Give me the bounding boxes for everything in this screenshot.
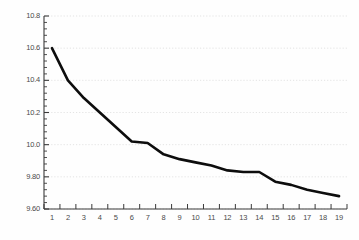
data-series-line (52, 48, 339, 196)
x-axis-tick-label: 19 (330, 213, 348, 222)
y-axis-tick-label: 10.4 (14, 75, 40, 84)
y-axis-tick-label: 9.80 (14, 172, 40, 181)
y-axis-tick-label: 9.60 (14, 204, 40, 213)
grid-lines (45, 16, 347, 209)
y-axis-ticks (44, 16, 49, 209)
chart-plot-area (0, 0, 359, 240)
y-axis-tick-label: 10.6 (14, 43, 40, 52)
line-chart: 10.810.610.410.210.09.809.60 12345678910… (0, 0, 359, 240)
y-axis-tick-label: 10.2 (14, 108, 40, 117)
x-axis-ticks (44, 204, 347, 209)
y-axis-tick-label: 10.0 (14, 140, 40, 149)
y-axis-tick-label: 10.8 (14, 11, 40, 20)
series-line (52, 48, 339, 196)
